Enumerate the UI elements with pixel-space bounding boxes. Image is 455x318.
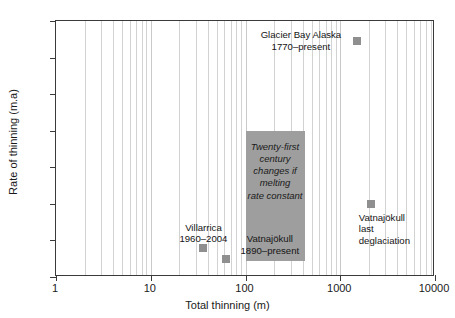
gridline bbox=[113, 21, 114, 275]
gridline bbox=[319, 21, 320, 275]
gridline bbox=[414, 21, 415, 275]
marker-vatnajokull-last-deglaciation[interactable] bbox=[367, 200, 375, 208]
y-tick-7 bbox=[50, 21, 56, 22]
y-tick-1 bbox=[50, 240, 56, 241]
gridline bbox=[231, 21, 232, 275]
gridline bbox=[336, 21, 337, 275]
gridline bbox=[142, 21, 143, 275]
gridline bbox=[122, 21, 123, 275]
gridline bbox=[420, 21, 421, 275]
gridline bbox=[136, 21, 137, 275]
annotation-vatnajokull-1890-present: Vatnajökull 1890–present bbox=[240, 233, 299, 256]
gridline bbox=[431, 21, 432, 275]
y-tick-4 bbox=[50, 131, 56, 132]
gridline bbox=[426, 21, 427, 275]
y-tick-2 bbox=[50, 204, 56, 205]
x-tick-1000 bbox=[340, 275, 341, 281]
y-axis-title: Rate of thinning (m.a) bbox=[7, 17, 19, 267]
marker-villarrica[interactable] bbox=[199, 244, 207, 252]
gridline bbox=[101, 21, 102, 275]
x-tick-label-100: 100 bbox=[235, 282, 253, 294]
y-tick-3 bbox=[50, 167, 56, 168]
x-tick-1 bbox=[56, 275, 57, 281]
gridline bbox=[146, 21, 147, 275]
gridline bbox=[130, 21, 131, 275]
x-tick-10 bbox=[151, 275, 152, 281]
x-tick-label-1000: 1000 bbox=[327, 282, 351, 294]
gridline bbox=[312, 21, 313, 275]
x-tick-label-1: 1 bbox=[52, 282, 58, 294]
x-tick-100 bbox=[246, 275, 247, 281]
chart-figure: Rate of thinning (m.a) 7 6 5 4 3 2 1 0 1… bbox=[0, 0, 455, 318]
gridline bbox=[85, 21, 86, 275]
x-axis-title: Total thinning (m) bbox=[0, 299, 455, 311]
plot-area: Twenty-first century changes if melting … bbox=[55, 20, 434, 276]
y-tick-6 bbox=[50, 58, 56, 59]
y-tick-5 bbox=[50, 94, 56, 95]
gridline bbox=[331, 21, 332, 275]
gridline bbox=[340, 21, 341, 275]
annotation-glacier-bay-alaska: Glacier Bay Alaska 1770–present bbox=[261, 29, 342, 52]
gridline bbox=[326, 21, 327, 275]
marker-vatnajokull-1890-present[interactable] bbox=[222, 255, 230, 263]
x-tick-label-10000: 10000 bbox=[419, 282, 450, 294]
annotation-villarrica: Villarrica 1960–2004 bbox=[179, 222, 227, 245]
gridline bbox=[151, 21, 152, 275]
projection-region-text: Twenty-first century changes if melting … bbox=[248, 141, 303, 202]
gridline bbox=[236, 21, 237, 275]
x-tick-label-10: 10 bbox=[144, 282, 156, 294]
x-tick-10000 bbox=[435, 275, 436, 281]
marker-glacier-bay-alaska[interactable] bbox=[353, 37, 361, 45]
annotation-vatnajokull-last-deglaciation: Vatnajökull last deglaciation bbox=[359, 212, 410, 247]
